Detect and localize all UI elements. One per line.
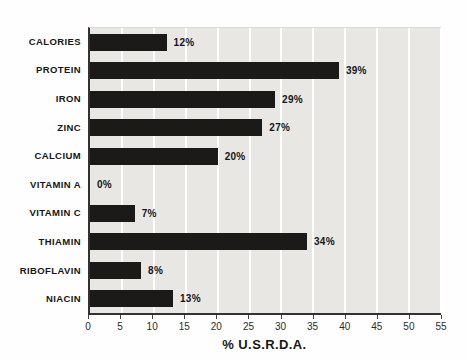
tick-label-55: 55 <box>435 321 446 332</box>
bar-calories <box>90 34 167 51</box>
value-label: 29% <box>282 94 303 105</box>
bar-rows: 12%39%29%27%20%0%7%34%8%13% <box>90 28 441 313</box>
bar-row: 7% <box>90 199 441 228</box>
bar-row: 39% <box>90 57 441 86</box>
tick-label-0: 0 <box>85 321 91 332</box>
tick-label-5: 5 <box>117 321 123 332</box>
plot-area: 12%39%29%27%20%0%7%34%8%13% <box>88 27 441 315</box>
tick-label-40: 40 <box>339 321 350 332</box>
category-label-iron: IRON <box>0 84 81 113</box>
tick-mark-15 <box>184 315 185 319</box>
tick-mark-20 <box>216 315 217 319</box>
tick-label-15: 15 <box>179 321 190 332</box>
bar-thiamin <box>90 233 307 250</box>
tick-label-30: 30 <box>275 321 286 332</box>
bar-row: 34% <box>90 228 441 257</box>
tick-label-50: 50 <box>403 321 414 332</box>
bar-calcium <box>90 148 218 165</box>
category-label-protein: PROTEIN <box>0 56 81 85</box>
bar-zinc <box>90 119 262 136</box>
value-label: 34% <box>314 236 335 247</box>
tick-label-20: 20 <box>211 321 222 332</box>
category-label-calories: CALORIES <box>0 27 81 56</box>
value-label: 8% <box>148 265 163 276</box>
tick-label-35: 35 <box>307 321 318 332</box>
tick-mark-30 <box>281 315 282 319</box>
category-labels: CALORIESPROTEINIRONZINCCALCIUMVITAMIN AV… <box>0 27 81 313</box>
bar-row: 27% <box>90 114 441 143</box>
tick-mark-35 <box>313 315 314 319</box>
bar-vitamin-c <box>90 205 135 222</box>
category-label-thiamin: THIAMIN <box>0 227 81 256</box>
bar-row: 8% <box>90 256 441 285</box>
tick-mark-0 <box>88 315 89 319</box>
bar-row: 20% <box>90 142 441 171</box>
value-label: 7% <box>142 208 157 219</box>
value-label: 0% <box>97 179 112 190</box>
bar-iron <box>90 91 275 108</box>
value-label: 20% <box>225 151 246 162</box>
bar-riboflavin <box>90 262 141 279</box>
value-label: 12% <box>174 37 195 48</box>
tick-mark-40 <box>345 315 346 319</box>
category-label-calcium: CALCIUM <box>0 141 81 170</box>
value-label: 27% <box>269 122 290 133</box>
tick-mark-55 <box>441 315 442 319</box>
bar-chart-figure: 12%39%29%27%20%0%7%34%8%13% CALORIESPROT… <box>0 0 466 359</box>
category-label-vitamin-c: VITAMIN C <box>0 199 81 228</box>
bar-row: 29% <box>90 85 441 114</box>
tick-label-10: 10 <box>147 321 158 332</box>
tick-mark-45 <box>377 315 378 319</box>
x-axis-title: % U.S.R.D.A. <box>88 337 441 352</box>
value-label: 13% <box>180 293 201 304</box>
category-label-vitamin-a: VITAMIN A <box>0 170 81 199</box>
tick-label-25: 25 <box>243 321 254 332</box>
bar-row: 13% <box>90 285 441 314</box>
bar-niacin <box>90 290 173 307</box>
bar-row: 0% <box>90 171 441 200</box>
category-label-zinc: ZINC <box>0 113 81 142</box>
category-label-niacin: NIACIN <box>0 284 81 313</box>
tick-mark-10 <box>152 315 153 319</box>
bar-protein <box>90 62 339 79</box>
tick-mark-25 <box>248 315 249 319</box>
tick-label-45: 45 <box>371 321 382 332</box>
bar-row: 12% <box>90 28 441 57</box>
tick-mark-5 <box>120 315 121 319</box>
category-label-riboflavin: RIBOFLAVIN <box>0 256 81 285</box>
tick-mark-50 <box>409 315 410 319</box>
value-label: 39% <box>346 65 367 76</box>
